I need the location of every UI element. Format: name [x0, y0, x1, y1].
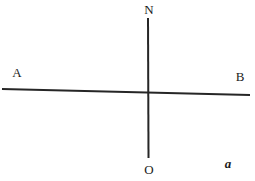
- panel-label-a: a: [225, 157, 232, 170]
- diagram-canvas: [0, 0, 255, 181]
- label-point-a: A: [12, 66, 21, 79]
- figure-panel-a: N A B O a: [0, 0, 255, 181]
- label-north: N: [144, 3, 153, 16]
- vertical-line-no: [148, 18, 149, 158]
- label-origin-o: O: [144, 163, 153, 176]
- label-point-b: B: [236, 70, 245, 83]
